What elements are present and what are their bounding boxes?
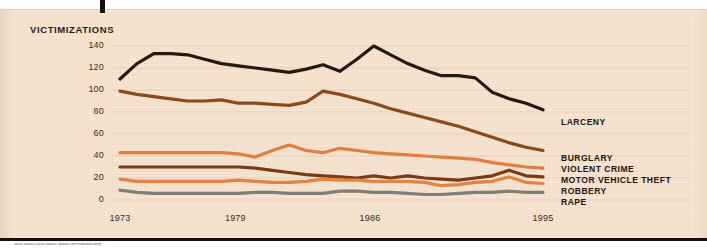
bottom-divider xyxy=(0,238,707,241)
series-label-violent-crime: VIOLENT CRIME xyxy=(561,164,634,174)
series-label-rape: RAPE xyxy=(561,197,587,207)
x-axis-tick-label: 1973 xyxy=(90,213,150,223)
series-line-violent-crime xyxy=(120,145,543,168)
plot-area: 020406080100120140 1973197919861995 LARC… xyxy=(0,10,707,238)
y-axis-tick-label: 20 xyxy=(64,172,104,182)
y-axis-tick-label: 140 xyxy=(64,40,104,50)
chart-figure: VICTIMIZATIONS 020406080100120140 197319… xyxy=(0,0,707,252)
y-axis-tick-label: 60 xyxy=(64,128,104,138)
y-axis-tick-label: 0 xyxy=(64,194,104,204)
y-axis-tick-label: 80 xyxy=(64,106,104,116)
y-axis-tick-label: 120 xyxy=(64,62,104,72)
y-axis-tick-label: 100 xyxy=(64,84,104,94)
x-axis-tick-label: 1995 xyxy=(513,213,573,223)
x-axis-tick-label: 1979 xyxy=(205,213,265,223)
series-line-burglary xyxy=(120,91,543,150)
y-axis-tick-label: 40 xyxy=(64,150,104,160)
x-axis-tick-label: 1986 xyxy=(340,213,400,223)
series-label-burglary: BURGLARY xyxy=(561,153,613,163)
series-line-rape xyxy=(120,190,543,194)
series-label-larceny: LARCENY xyxy=(561,117,606,127)
series-label-motor-vehicle-theft: MOTOR VEHICLE THEFT xyxy=(561,175,671,185)
source-caption: Source: Bureau of Justice Statistics, Na… xyxy=(14,243,694,246)
series-label-robbery: ROBBERY xyxy=(561,186,607,196)
